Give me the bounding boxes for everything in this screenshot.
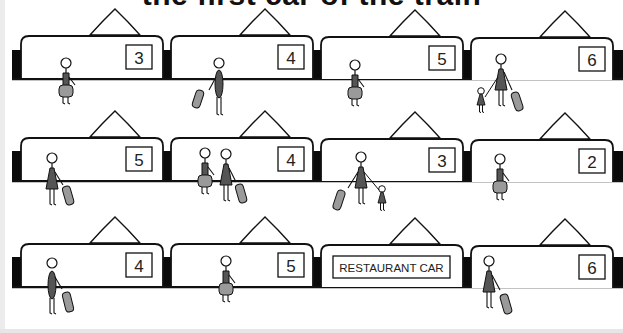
- car-number: 4: [134, 257, 143, 276]
- train-car: 4: [171, 111, 313, 180]
- train-car: 5: [171, 217, 313, 286]
- car-number: 5: [437, 50, 446, 69]
- train-row-3: 4 5 RESTAURANT CAR 6: [12, 217, 623, 315]
- train-car: 4: [21, 217, 163, 286]
- train-car: 3: [321, 112, 463, 181]
- car-number: 4: [286, 49, 295, 68]
- train-row-1: 3 4 5 6: [12, 9, 623, 115]
- train-car: 2: [471, 113, 613, 182]
- car-number: 6: [587, 259, 596, 278]
- restaurant-car: RESTAURANT CAR: [321, 218, 463, 287]
- train-car: 5: [21, 111, 163, 180]
- train-car: 4: [171, 9, 313, 78]
- car-number: 6: [587, 51, 596, 70]
- car-number: 5: [286, 257, 295, 276]
- restaurant-car-label: RESTAURANT CAR: [339, 262, 443, 274]
- car-number: 4: [286, 151, 295, 170]
- car-number: 2: [587, 153, 596, 172]
- train-car: 6: [471, 11, 613, 80]
- train-row-2: 5 4 3 2: [12, 111, 623, 211]
- train-car: 5: [321, 10, 463, 79]
- car-number: 5: [134, 151, 143, 170]
- car-number: 3: [134, 49, 143, 68]
- train-diagram: 3 4 5 6: [0, 0, 623, 333]
- car-number: 3: [437, 152, 446, 171]
- train-car: 3: [21, 9, 163, 78]
